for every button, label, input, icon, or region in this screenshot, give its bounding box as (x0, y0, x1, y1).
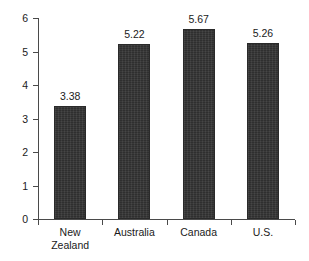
x-axis-category-label: U.S. (231, 226, 295, 239)
y-axis-tick (33, 186, 38, 187)
y-axis-line (38, 18, 39, 220)
y-axis-tick-label: 4 (4, 80, 28, 91)
y-axis-tick (33, 18, 38, 19)
category-label-line: Zealand (38, 239, 102, 252)
x-axis-category-label: Canada (167, 226, 231, 239)
category-label-line: Australia (102, 226, 166, 239)
bar-chart: 0123456 3.385.225.675.26 NewZealandAustr… (0, 0, 309, 261)
y-axis-tick (33, 152, 38, 153)
x-axis-tick (102, 220, 103, 225)
y-axis-tick (33, 119, 38, 120)
y-axis-tick-label: 3 (4, 114, 28, 125)
bar-value-label: 3.38 (40, 91, 100, 102)
y-axis-tick-label: 1 (4, 181, 28, 192)
bar (118, 44, 150, 219)
category-label-line: New (38, 226, 102, 239)
y-axis-tick-label: 0 (4, 214, 28, 225)
bar (183, 29, 215, 219)
category-label-line: Canada (167, 226, 231, 239)
x-axis-category-label: Australia (102, 226, 166, 239)
y-axis-tick (33, 52, 38, 53)
bar (247, 43, 279, 219)
bar-value-label: 5.67 (169, 14, 229, 25)
x-axis-tick (167, 220, 168, 225)
y-axis-tick-label: 5 (4, 47, 28, 58)
category-label-line: U.S. (231, 226, 295, 239)
y-axis-tick (33, 85, 38, 86)
bar (54, 106, 86, 219)
x-axis-tick (295, 220, 296, 225)
bar-value-label: 5.22 (104, 29, 164, 40)
x-axis-tick (38, 220, 39, 225)
y-axis-tick-label: 2 (4, 147, 28, 158)
bar-value-label: 5.26 (233, 28, 293, 39)
x-axis-tick (231, 220, 232, 225)
y-axis-tick-label: 6 (4, 13, 28, 24)
x-axis-category-label: NewZealand (38, 226, 102, 251)
